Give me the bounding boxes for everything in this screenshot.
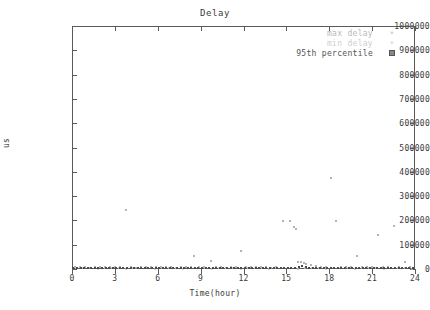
y-tick-mark — [72, 75, 77, 76]
data-point — [137, 267, 139, 269]
data-point — [201, 267, 203, 269]
data-point — [140, 267, 142, 269]
data-point — [147, 267, 149, 269]
data-point — [305, 266, 307, 268]
data-point — [122, 267, 124, 269]
y-tick-label: 700000 — [368, 94, 430, 103]
data-point — [323, 267, 325, 269]
data-point — [326, 267, 328, 269]
data-point — [282, 220, 284, 222]
x-tick-label: 0 — [57, 274, 87, 283]
x-tick-mark — [72, 269, 73, 274]
y-tick-mark — [72, 245, 77, 246]
legend-label: min delay — [327, 39, 373, 48]
chart-canvas: Delay 0100000200000300000400000500000600… — [0, 0, 430, 310]
data-point — [248, 267, 250, 269]
data-point — [240, 267, 242, 269]
square-glyph — [389, 50, 395, 56]
y-tick-mark — [410, 75, 415, 76]
data-point — [133, 267, 135, 269]
data-point — [308, 267, 310, 269]
data-point — [319, 267, 321, 269]
data-point — [390, 267, 392, 269]
data-point — [162, 267, 164, 269]
x-tick-label: 15 — [271, 274, 301, 283]
y-tick-mark — [72, 123, 77, 124]
data-point — [210, 260, 212, 262]
data-point — [297, 261, 299, 263]
data-point — [115, 267, 117, 269]
data-point — [169, 267, 171, 269]
y-tick-mark — [72, 99, 77, 100]
plus-marker: + — [379, 40, 405, 47]
y-tick-label: 400000 — [368, 167, 430, 176]
data-point — [294, 267, 296, 269]
data-point — [351, 267, 353, 269]
x-tick-mark — [158, 269, 159, 274]
y-tick-mark — [72, 220, 77, 221]
data-point — [335, 220, 337, 222]
data-point — [287, 267, 289, 269]
y-tick-label: 200000 — [368, 216, 430, 225]
x-tick-mark — [244, 26, 245, 31]
data-point — [83, 267, 85, 269]
data-point — [237, 267, 239, 269]
data-point — [97, 267, 99, 269]
y-tick-mark — [410, 123, 415, 124]
data-point — [187, 267, 189, 269]
data-point — [193, 255, 195, 257]
data-point — [105, 267, 107, 269]
data-point — [273, 267, 275, 269]
data-point — [280, 267, 282, 269]
data-point — [310, 264, 312, 266]
y-tick-mark — [410, 245, 415, 246]
x-tick-label: 9 — [186, 274, 216, 283]
plus-glyph: + — [390, 40, 395, 47]
data-point — [312, 267, 314, 269]
x-tick-mark — [158, 26, 159, 31]
y-tick-label: 600000 — [368, 119, 430, 128]
data-point — [408, 267, 410, 269]
data-point — [251, 267, 253, 269]
data-point — [333, 267, 335, 269]
data-point — [412, 267, 414, 269]
data-point — [276, 267, 278, 269]
y-tick-label: 500000 — [368, 143, 430, 152]
data-point — [269, 267, 271, 269]
y-tick-mark — [410, 99, 415, 100]
x-tick-label: 24 — [400, 274, 430, 283]
data-point — [208, 267, 210, 269]
legend-item-95th-percentile: 95th percentile — [255, 48, 405, 58]
square-marker — [379, 50, 405, 56]
data-point — [197, 267, 199, 269]
x-tick-mark — [201, 269, 202, 274]
data-point — [180, 267, 182, 269]
data-point — [165, 267, 167, 269]
data-point — [330, 177, 332, 179]
x-tick-label: 21 — [357, 274, 387, 283]
data-point — [356, 255, 358, 257]
data-point — [126, 267, 128, 269]
y-tick-mark — [72, 50, 77, 51]
data-point — [387, 267, 389, 269]
data-point — [244, 267, 246, 269]
y-tick-mark — [410, 220, 415, 221]
data-point — [298, 266, 300, 268]
x-axis-label: Time(hour) — [0, 289, 430, 298]
data-point — [289, 220, 291, 222]
x-tick-mark — [415, 26, 416, 31]
data-point — [76, 267, 78, 269]
data-point — [144, 267, 146, 269]
data-point — [125, 209, 127, 211]
x-tick-label: 18 — [314, 274, 344, 283]
x-tick-label: 6 — [143, 274, 173, 283]
data-point — [373, 267, 375, 269]
data-point — [358, 267, 360, 269]
legend-label: 95th percentile — [296, 49, 373, 58]
data-point — [405, 267, 407, 269]
data-point — [344, 267, 346, 269]
y-tick-mark — [72, 148, 77, 149]
x-tick-mark — [244, 269, 245, 274]
x-tick-mark — [329, 269, 330, 274]
data-point — [377, 234, 379, 236]
